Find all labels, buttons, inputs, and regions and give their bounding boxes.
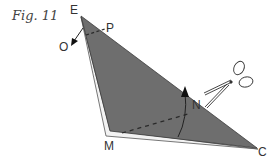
label-c: C	[258, 145, 267, 159]
origami-diagram: E P O N M C	[0, 0, 277, 166]
label-o: O	[59, 40, 68, 54]
scissors-icon	[204, 60, 254, 108]
label-m: M	[104, 139, 114, 153]
label-e: E	[70, 3, 78, 17]
label-p: P	[106, 21, 114, 35]
label-n: N	[192, 98, 201, 112]
fold-arrow-o-icon	[71, 28, 83, 46]
